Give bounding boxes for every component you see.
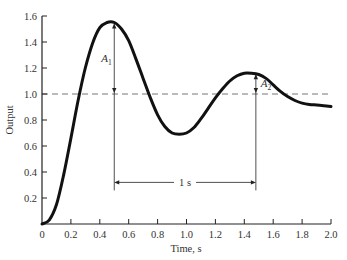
y-axis-title: Output <box>4 105 15 134</box>
x-axis-ticks: 00.20.40.60.81.01.21.41.61.82.0 <box>39 219 337 240</box>
x-tick-label: 1.0 <box>180 229 193 240</box>
axes <box>42 16 331 224</box>
x-tick-label: 0.6 <box>122 229 135 240</box>
x-tick-label: 1.6 <box>267 229 280 240</box>
y-tick-label: 1.0 <box>24 89 37 100</box>
y-axis-ticks: 0.20.40.60.81.01.21.41.6 <box>24 11 47 204</box>
x-tick-label: 0.8 <box>151 229 164 240</box>
amplitude-label-a2: A2 <box>260 77 272 92</box>
y-tick-label: 1.4 <box>24 37 38 48</box>
amplitude-label-a1: A1 <box>100 52 112 67</box>
step-response-chart: 00.20.40.60.81.01.21.41.61.82.0 0.20.40.… <box>0 0 347 260</box>
y-tick-label: 0.6 <box>24 141 37 152</box>
x-tick-label: 0.4 <box>93 229 107 240</box>
x-tick-label: 0.2 <box>64 229 77 240</box>
y-tick-label: 0.2 <box>24 193 37 204</box>
x-tick-label: 0 <box>39 229 44 240</box>
x-axis-title: Time, s <box>170 243 201 254</box>
y-tick-label: 0.4 <box>24 167 38 178</box>
annotation-guides <box>114 23 256 191</box>
x-tick-label: 1.2 <box>209 229 222 240</box>
output-curve <box>42 22 331 224</box>
y-tick-label: 1.2 <box>24 63 37 74</box>
y-tick-label: 0.8 <box>24 115 37 126</box>
period-label: 1 s <box>179 177 191 188</box>
x-tick-label: 1.8 <box>296 229 309 240</box>
annotations: A1A21 s <box>100 24 271 188</box>
y-tick-label: 1.6 <box>24 11 37 22</box>
x-tick-label: 1.4 <box>238 229 252 240</box>
x-tick-label: 2.0 <box>324 229 337 240</box>
